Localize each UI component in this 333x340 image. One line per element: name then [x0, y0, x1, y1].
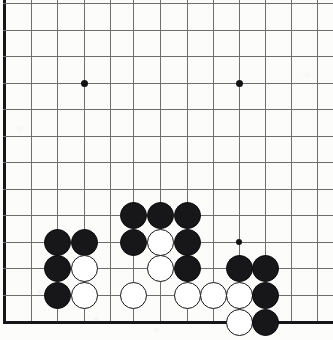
black-stone-a12[interactable]: [44, 282, 71, 309]
grid-line-horizontal-3: [3, 83, 333, 84]
black-stone-h12[interactable]: [252, 282, 279, 309]
grid-line-horizontal-2: [3, 56, 333, 57]
grid-line-horizontal-4: [3, 109, 333, 110]
white-stone-b11[interactable]: [71, 255, 98, 282]
black-stone-h13[interactable]: [252, 309, 279, 336]
white-stone-f12[interactable]: [200, 282, 227, 309]
black-stone-d9[interactable]: [147, 202, 174, 229]
black-stone-h11[interactable]: [252, 255, 279, 282]
black-stone-a10[interactable]: [44, 229, 71, 256]
white-stone-c12[interactable]: [120, 282, 147, 309]
white-stone-g12[interactable]: [226, 282, 253, 309]
black-stone-e11[interactable]: [174, 255, 201, 282]
grid-line-horizontal-1: [3, 30, 333, 31]
black-stone-g11[interactable]: [226, 255, 253, 282]
star-point-upper-left: [81, 80, 88, 87]
black-stone-e9[interactable]: [174, 202, 201, 229]
black-stone-c9[interactable]: [120, 202, 147, 229]
white-stone-b12[interactable]: [71, 282, 98, 309]
star-point-lower-right: [236, 239, 242, 245]
white-stone-d11[interactable]: [147, 255, 174, 282]
star-point-upper-right: [236, 80, 243, 87]
black-stone-a11[interactable]: [44, 255, 71, 282]
grid-line-horizontal-0: [3, 3, 333, 4]
black-stone-b10[interactable]: [71, 229, 98, 256]
grid-line-horizontal-7: [3, 189, 333, 190]
white-stone-d10[interactable]: [147, 229, 174, 256]
grid-line-horizontal-6: [3, 162, 333, 163]
black-stone-c10[interactable]: [120, 229, 147, 256]
grid-line-horizontal-5: [3, 136, 333, 137]
black-stone-e10[interactable]: [174, 229, 201, 256]
white-stone-g13[interactable]: [226, 309, 253, 336]
board-edge-bottom: [3, 321, 333, 324]
go-board-diagram: [0, 0, 333, 340]
white-stone-e12[interactable]: [174, 282, 201, 309]
